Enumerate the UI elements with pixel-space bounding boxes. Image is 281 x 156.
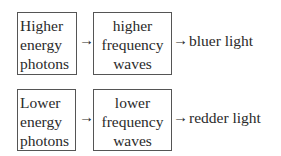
arrow-icon: → [173,31,188,50]
box-line: energy [20,35,76,54]
box-line: energy [20,112,75,131]
box-line: photons [20,131,75,150]
higher-energy-photons-box: Higher energy photons [17,12,77,75]
arrow-icon: → [173,108,188,127]
box-line: frequency [94,112,171,131]
box-line: photons [20,54,76,73]
box-line: Higher [20,16,76,35]
box-line: frequency [94,35,171,54]
redder-light-label: redder light [189,108,261,127]
box-line: higher [94,16,171,35]
lower-frequency-waves-box: lower frequency waves [93,89,172,151]
higher-frequency-waves-box: higher frequency waves [93,12,172,75]
bluer-light-label: bluer light [189,31,253,50]
box-line: Lower [20,93,75,112]
arrow-icon: → [79,31,94,50]
lower-energy-photons-box: Lower energy photons [17,89,76,151]
box-line: waves [94,131,171,150]
box-line: waves [94,54,171,73]
arrow-icon: → [79,108,94,127]
box-line: lower [94,93,171,112]
